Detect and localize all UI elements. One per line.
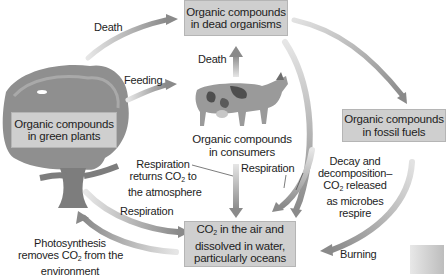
pointer-line-respiration-returns bbox=[192, 165, 233, 176]
node-co2-reservoir: CO2 in the air and dissolved in water, p… bbox=[184, 221, 296, 267]
annotation-respiration-line1: Respiration bbox=[128, 158, 198, 170]
node-fossil-fuels-line1: Organic compounds bbox=[344, 113, 444, 126]
edge-label-consumers-to-dead: Death bbox=[198, 53, 226, 65]
edge-label-fossil-to-co2: Burning bbox=[340, 248, 377, 260]
arrow-dead-to-fossil bbox=[294, 20, 407, 104]
annotation-photosynthesis-line2-pre: removes CO bbox=[18, 249, 78, 261]
edge-label-respiration-dead: Respiration bbox=[241, 162, 294, 174]
edge-label-plants-to-dead: Death bbox=[94, 21, 122, 33]
node-dead-organisms: Organic compounds in dead organisms bbox=[184, 0, 288, 36]
node-green-plants-line1: Organic compounds bbox=[14, 118, 114, 131]
node-green-plants-line2: in green plants bbox=[28, 130, 100, 143]
pointer-line-respiration bbox=[284, 175, 286, 188]
annotation-decay-line3-post: released bbox=[343, 179, 386, 191]
annotation-decay: Decay and decomposition– CO2 released as… bbox=[315, 155, 395, 219]
edge-label-plants-to-consumers: Feeding bbox=[124, 74, 162, 86]
annotation-respiration-returns: Respiration returns CO2 to the atmospher… bbox=[128, 158, 198, 198]
annotation-photosynthesis-line2: removes CO2 from the bbox=[18, 249, 122, 265]
annotation-respiration-line3: the atmosphere bbox=[128, 186, 198, 198]
co2-line1-rest: in the air and bbox=[217, 223, 284, 235]
node-fossil-fuels: Organic compounds in fossil fuels bbox=[342, 109, 446, 142]
node-fossil-fuels-line2: in fossil fuels bbox=[363, 126, 426, 139]
annotation-decay-line4: as microbes bbox=[315, 195, 395, 207]
node-consumers-line2: in consumers bbox=[192, 146, 292, 159]
annotation-photosynthesis-line1: Photosynthesis bbox=[18, 237, 122, 249]
node-dead-organisms-line1: Organic compounds bbox=[186, 6, 286, 19]
corner-shade-decoration bbox=[410, 245, 444, 274]
annotation-photosynthesis-line3: environment bbox=[18, 265, 122, 277]
annotation-decay-line3: CO2 released bbox=[315, 179, 395, 195]
cow-illustration bbox=[196, 72, 288, 126]
node-co2-line1: CO2 in the air and bbox=[196, 223, 283, 240]
annotation-respiration-line2-pre: returns CO bbox=[129, 170, 181, 182]
co2-text: CO bbox=[196, 223, 213, 235]
node-co2-line2: dissolved in water, bbox=[195, 240, 285, 253]
annotation-respiration-line2-post: to bbox=[185, 170, 197, 182]
annotation-decay-line3-pre: CO bbox=[323, 179, 339, 191]
node-consumers-line1: Organic compounds bbox=[192, 133, 292, 146]
arrow-consumers-to-dead bbox=[229, 46, 243, 77]
annotation-decay-line2: decomposition– bbox=[315, 167, 395, 179]
node-consumers: Organic compounds in consumers bbox=[192, 133, 292, 158]
node-green-plants: Organic compounds in green plants bbox=[11, 112, 117, 148]
annotation-photosynthesis: Photosynthesis removes CO2 from the envi… bbox=[18, 237, 122, 277]
annotation-photosynthesis-line2-post: from the bbox=[81, 249, 123, 261]
annotation-decay-line5: respire bbox=[315, 207, 395, 219]
annotation-respiration-line2: returns CO2 to bbox=[128, 170, 198, 186]
annotation-decay-line1: Decay and bbox=[315, 155, 395, 167]
edge-label-plants-to-co2: Respiration bbox=[120, 205, 173, 217]
node-dead-organisms-line2: in dead organisms bbox=[191, 18, 282, 31]
node-co2-line3: particularly oceans bbox=[194, 252, 286, 265]
